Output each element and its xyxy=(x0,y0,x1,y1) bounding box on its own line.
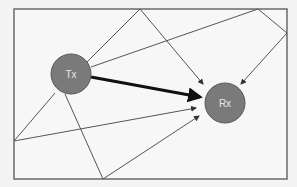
multipath-diagram: Tx Rx xyxy=(0,0,297,187)
rx-node: Rx xyxy=(205,83,245,123)
tx-node: Tx xyxy=(51,54,91,94)
room-frame xyxy=(14,9,287,179)
rx-label: Rx xyxy=(219,98,231,109)
tx-label: Tx xyxy=(65,69,76,80)
